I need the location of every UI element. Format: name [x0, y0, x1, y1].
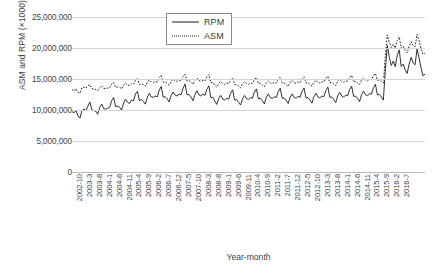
legend-label-asm: ASM: [204, 31, 224, 41]
x-tick-label: 2013-8: [333, 174, 342, 197]
x-tick-label: 2009-11: [244, 174, 253, 201]
gridline: [72, 110, 425, 111]
y-tick-label: 20,000,000: [14, 44, 72, 53]
x-tick-label: 2013-3: [323, 174, 332, 197]
series-line-rpm: [72, 46, 425, 119]
x-tick-label: 2003-3: [85, 174, 94, 197]
x-tick-label: 2016-7: [402, 174, 411, 197]
x-tick-label: 2016-2: [392, 174, 401, 197]
series-line-asm: [72, 34, 425, 93]
x-tick-label: 2010-9: [263, 174, 272, 197]
x-tick-label: 2008-8: [214, 174, 223, 197]
x-tick-label: 2011-12: [293, 174, 302, 201]
plot-area: [72, 17, 425, 172]
x-tick-label: 2004-6: [115, 174, 124, 197]
gridline: [72, 17, 425, 18]
x-tick-label: 2006-7: [164, 174, 173, 197]
legend-swatch-solid-icon: [172, 18, 199, 26]
x-tick-label: 2010-4: [253, 174, 262, 197]
x-axis-tick-labels: 2002-102003-32003-82004-12004-62004-1120…: [72, 174, 425, 236]
x-tick-label: 2014-11: [363, 174, 372, 201]
y-tick-label: 5,000,000: [14, 137, 72, 146]
x-tick-label: 2012-5: [303, 174, 312, 197]
legend-swatch-dotted-icon: [172, 32, 199, 40]
x-tick-label: 2006-2: [154, 174, 163, 197]
legend-item-asm: ASM: [172, 30, 224, 41]
x-tick-label: 2006-12: [174, 174, 183, 201]
x-tick-label: 2011-7: [283, 174, 292, 196]
y-tick-label: 25,000,000: [14, 13, 72, 22]
x-tick-label: 2009-1: [224, 174, 233, 197]
x-tick-label: 2014-1: [343, 174, 352, 197]
x-tick-label: 2012-10: [313, 174, 322, 201]
x-tick-label: 2011-2: [273, 174, 282, 196]
x-tick-label: 2005-4: [134, 174, 143, 197]
gridline: [72, 48, 425, 49]
x-tick-label: 2014-6: [353, 174, 362, 197]
y-tick-label: 15,000,000: [14, 75, 72, 84]
legend-label-rpm: RPM: [204, 17, 224, 27]
y-axis-tick-labels: 25,000,00020,000,00015,000,00010,000,000…: [8, 0, 72, 277]
x-axis-title: Year-month: [0, 252, 437, 262]
chart-legend: RPM ASM: [166, 13, 232, 45]
series-lines: [72, 17, 425, 172]
x-tick-label: 2007-10: [194, 174, 203, 201]
gridline: [72, 141, 425, 142]
y-tick-label: 0: [14, 168, 72, 177]
legend-item-rpm: RPM: [172, 16, 224, 27]
gridline: [72, 172, 425, 173]
x-tick-label: 2003-8: [95, 174, 104, 197]
y-tick-label: 10,000,000: [14, 106, 72, 115]
x-tick-label: 2015-9: [382, 174, 391, 197]
x-tick-label: 2004-11: [125, 174, 134, 201]
x-tick-label: 2005-9: [144, 174, 153, 197]
chart-container: ASM and RPM (×1000) 25,000,00020,000,000…: [0, 0, 437, 277]
x-tick-label: 2008-3: [204, 174, 213, 197]
gridline: [72, 79, 425, 80]
x-tick-label: 2007-5: [184, 174, 193, 197]
x-tick-label: 2009-6: [234, 174, 243, 197]
x-tick-label: 2004-1: [105, 174, 114, 197]
x-tick-label: 2015-4: [372, 174, 381, 197]
x-tick-label: 2002-10: [75, 174, 84, 201]
